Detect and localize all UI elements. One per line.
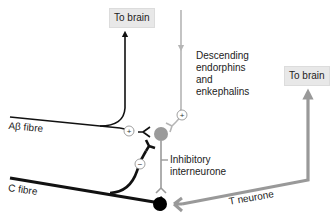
abeta-synapse: [138, 127, 150, 137]
c-fibre-pathway: [10, 140, 162, 210]
abeta-fibre-pathway: [10, 34, 134, 131]
abeta-plus-sign: +: [124, 126, 134, 136]
inhibitory-label-line2: interneurone: [170, 166, 250, 178]
descending-plus-sign: +: [177, 110, 187, 120]
c-fibre-minus-sign: −: [135, 159, 145, 169]
descending-label-line3: and: [196, 74, 276, 86]
inhibitory-interneurone: [154, 127, 168, 193]
t-neurone: [153, 94, 308, 211]
to-brain-box-right: To brain: [284, 66, 330, 86]
descending-label-line4: enkephalins: [196, 86, 276, 98]
descending-label-line1: Descending: [196, 50, 276, 62]
svg-text:−: −: [138, 160, 143, 169]
svg-text:+: +: [127, 127, 132, 136]
descending-label-line2: endorphins: [196, 62, 276, 74]
inhibitory-interneurone-label: Inhibitory interneurone: [170, 154, 250, 178]
inhibitory-label-line1: Inhibitory: [170, 154, 250, 166]
svg-text:+: +: [180, 111, 185, 120]
descending-label: Descending endorphins and enkephalins: [196, 50, 276, 98]
gate-control-diagram: + − +: [0, 0, 334, 218]
to-brain-box-left: To brain: [109, 8, 155, 28]
